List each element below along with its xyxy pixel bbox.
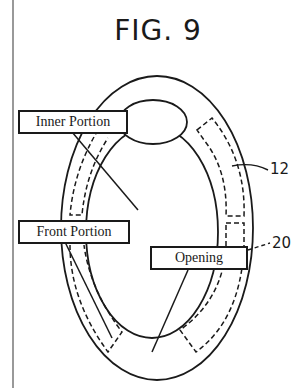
- top-opening-ellipse: [119, 100, 187, 144]
- dashed-insert-left-lower: [70, 245, 122, 352]
- leader-12: [232, 165, 268, 170]
- leader-opening: [152, 270, 188, 352]
- label-front-portion: Front Portion: [18, 220, 130, 244]
- reference-numeral-20: 20: [272, 234, 291, 252]
- label-opening: Opening: [150, 246, 248, 270]
- figure-title: FIG. 9: [108, 14, 208, 47]
- label-inner-portion: Inner Portion: [18, 110, 128, 134]
- patent-figure-drawing: [0, 0, 304, 388]
- reference-numeral-12: 12: [270, 160, 289, 178]
- dashed-insert-right-lower: [180, 223, 244, 352]
- leader-20: [248, 243, 270, 250]
